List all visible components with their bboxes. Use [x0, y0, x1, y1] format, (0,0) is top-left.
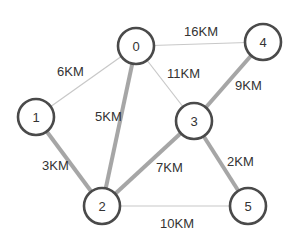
- node-label-0: 0: [132, 39, 139, 54]
- edge-label-3-5: 2KM: [227, 154, 254, 169]
- node-label-4: 4: [259, 35, 266, 50]
- edge-label-0-4: 16KM: [184, 24, 218, 39]
- node-5: 5: [230, 188, 266, 224]
- edge-label-0-2: 5KM: [95, 109, 122, 124]
- node-1: 1: [18, 99, 54, 135]
- node-2: 2: [84, 188, 120, 224]
- edge-label-0-1: 6KM: [57, 64, 84, 79]
- node-label-3: 3: [190, 114, 197, 129]
- node-label-5: 5: [244, 199, 251, 214]
- node-4: 4: [245, 24, 281, 60]
- edge-label-2-5: 10KM: [160, 216, 194, 231]
- node-label-1: 1: [32, 110, 39, 125]
- edge-label-2-3: 7KM: [156, 160, 183, 175]
- graph-diagram: 6KM 16KM 11KM 5KM 3KM 9KM 7KM 2KM 10KM 0…: [0, 0, 296, 244]
- edge-label-0-3: 11KM: [167, 66, 200, 81]
- node-3: 3: [176, 103, 212, 139]
- node-label-2: 2: [98, 199, 105, 214]
- edge-label-3-4: 9KM: [235, 78, 262, 93]
- node-0: 0: [118, 28, 154, 64]
- edge-label-1-2: 3KM: [42, 158, 69, 173]
